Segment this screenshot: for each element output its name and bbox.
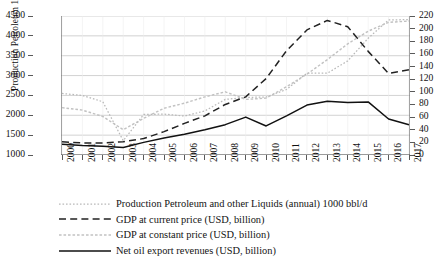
legend-item[interactable]: Production Petroleum and other Liquids (…: [57, 196, 439, 212]
y-axis-left-tick-label: 1500: [6, 128, 25, 139]
tick-mark: [327, 155, 328, 160]
y-axis-left-tick-label: 1000: [6, 148, 25, 159]
legend-item-label: GDP at constant price (USD, billion): [113, 229, 270, 240]
y-axis-left-tick-label: 2000: [6, 108, 25, 119]
y-axis-right-tick-label: 160: [419, 47, 433, 58]
legend-key-icon: [57, 213, 113, 225]
y-axis-right-tick-label: 80: [419, 97, 429, 108]
tick-mark: [184, 155, 185, 160]
tick-mark: [410, 91, 415, 92]
y-axis-right-tick-label: 200: [419, 22, 433, 33]
legend-item[interactable]: GDP at current price (USD, billion): [57, 212, 439, 228]
legend-key-icon: [57, 245, 113, 257]
legend-key-icon: [57, 198, 113, 210]
legend-item[interactable]: Net oil export revenues (USD, billion): [57, 243, 439, 259]
tick-mark: [28, 16, 33, 17]
tick-mark: [286, 155, 287, 160]
tick-mark: [28, 95, 33, 96]
y-axis-right-tick-label: 40: [419, 123, 429, 134]
tick-mark: [28, 115, 33, 116]
tick-mark: [409, 155, 410, 160]
y-axis-right-tick-label: 180: [419, 34, 433, 45]
tick-mark: [143, 155, 144, 160]
y-axis-right-tick-label: 60: [419, 110, 429, 121]
tick-mark: [82, 155, 83, 160]
y-axis-right-tick-label: 220: [419, 9, 433, 20]
y-axis-right-tick-label: 140: [419, 60, 433, 71]
y-axis-left-tick-label: 3500: [6, 49, 25, 60]
tick-mark: [28, 35, 33, 36]
legend-item-label: Production Petroleum and other Liquids (…: [113, 198, 367, 209]
legend-key-icon: [57, 229, 113, 241]
tick-mark: [368, 155, 369, 160]
tick-mark: [28, 155, 33, 156]
y-axis-left-tick-label: 3000: [6, 69, 25, 80]
tick-mark: [410, 117, 415, 118]
tick-mark: [225, 155, 226, 160]
y-axis-left-tick-label: 2500: [6, 88, 25, 99]
tick-mark: [410, 66, 415, 67]
tick-mark: [347, 155, 348, 160]
tick-mark: [410, 79, 415, 80]
tick-mark: [164, 155, 165, 160]
tick-mark: [28, 135, 33, 136]
y-axis-right-tick-label: 100: [419, 85, 433, 96]
tick-mark: [306, 155, 307, 160]
y-axis-left-tick-label: 4500: [6, 9, 25, 20]
tick-mark: [266, 155, 267, 160]
legend-item-label: GDP at current price (USD, billion): [113, 214, 265, 225]
legend-item-label: Net oil export revenues (USD, billion): [113, 245, 276, 256]
tick-mark: [410, 53, 415, 54]
tick-mark: [102, 155, 103, 160]
tick-mark: [388, 155, 389, 160]
tick-mark: [245, 155, 246, 160]
plot-area: [61, 16, 410, 155]
x-axis-tick-label: 2017: [413, 143, 423, 162]
y-axis-left-tick-label: 4000: [6, 29, 25, 40]
chart-canvas: [61, 16, 410, 155]
tick-mark: [410, 41, 415, 42]
tick-mark: [410, 28, 415, 29]
tick-mark: [28, 55, 33, 56]
tick-mark: [410, 104, 415, 105]
tick-mark: [28, 75, 33, 76]
y-axis-right-tick-label: 120: [419, 72, 433, 83]
tick-mark: [204, 155, 205, 160]
tick-mark: [123, 155, 124, 160]
tick-mark: [410, 129, 415, 130]
chart-figure: Production Petroleum 1000 bbl/d 10001500…: [0, 0, 439, 266]
tick-mark: [62, 155, 63, 160]
legend-item[interactable]: GDP at constant price (USD, billion): [57, 227, 439, 243]
tick-mark: [410, 16, 415, 17]
chart-legend: Production Petroleum and other Liquids (…: [57, 196, 439, 258]
